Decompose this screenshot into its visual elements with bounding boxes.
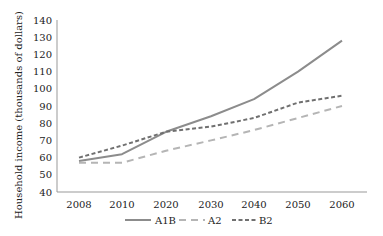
y-tick-label: 50	[39, 169, 52, 180]
x-tick-label: 2030	[198, 199, 223, 210]
series-lines	[79, 41, 342, 163]
y-tick-label: 40	[39, 187, 52, 198]
legend: A1BA2B2	[125, 215, 273, 226]
y-tick-label: 100	[33, 83, 52, 94]
legend-label-a2: A2	[207, 215, 222, 226]
legend-label-b2: B2	[259, 215, 273, 226]
x-tick-label: 2008	[66, 199, 91, 210]
x-tick-label: 2050	[285, 199, 310, 210]
y-tick-label: 120	[33, 49, 52, 60]
y-tick-label: 70	[39, 135, 52, 146]
y-tick-label: 80	[39, 118, 52, 129]
y-tick-label: 60	[39, 152, 52, 163]
series-line-a1b	[79, 41, 342, 161]
line-chart: Household income (thousands of dollars) …	[0, 0, 383, 236]
x-tick-label: 2040	[241, 199, 266, 210]
y-tick-label: 110	[33, 66, 52, 77]
y-axis-label: Household income (thousands of dollars)	[13, 11, 24, 219]
y-tick-label: 130	[33, 32, 52, 43]
x-tick-label: 2060	[329, 199, 354, 210]
legend-label-a1b: A1B	[154, 215, 176, 226]
y-tick-label: 90	[39, 101, 52, 112]
x-tick-label: 2010	[109, 199, 134, 210]
y-axis-ticks: 405060708090100110120130140	[33, 15, 52, 198]
x-tick-label: 2020	[153, 199, 178, 210]
series-line-b2	[79, 96, 342, 158]
y-tick-label: 140	[33, 15, 52, 26]
x-axis-ticks: 2008201020202030204020502060	[66, 199, 354, 210]
